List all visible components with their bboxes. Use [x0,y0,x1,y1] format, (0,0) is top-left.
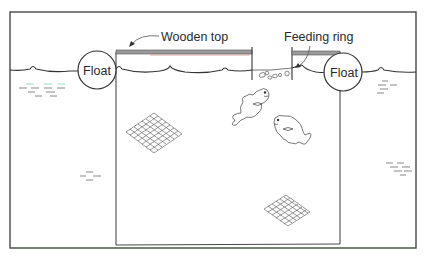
outer-frame [10,12,416,248]
water-ripples-right [377,81,397,93]
wooden-top-callout: Wooden top [129,30,228,47]
water-ripples-mid [80,172,101,180]
wooden-top [116,47,252,80]
water-ripples-right-lower [386,163,412,175]
cage-diagram: Float Float Wooden top Feeding ring [0,0,425,260]
fish-1 [232,89,269,126]
float-right-label: Float [330,66,358,80]
cage [116,52,340,245]
water-ripples-left [19,84,65,96]
float-left-label: Float [83,64,111,78]
wooden-top-label: Wooden top [161,30,228,44]
net-mesh-2 [264,195,310,226]
float-right: Float [324,53,362,91]
feeding-ring-label: Feeding ring [284,30,354,44]
float-left: Float [78,51,116,89]
fish-2 [274,115,311,144]
feed-pellets [259,71,289,79]
net-mesh-1 [126,113,182,153]
